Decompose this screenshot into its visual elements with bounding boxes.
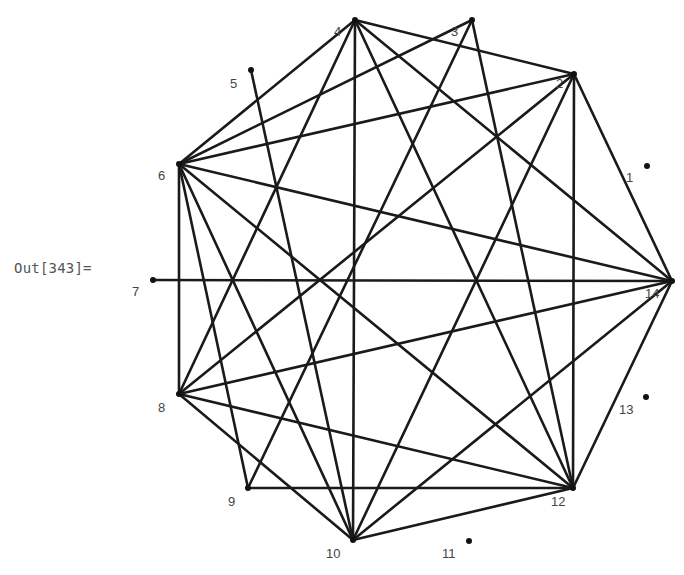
vertex-6 bbox=[176, 161, 182, 167]
edge-3-6 bbox=[179, 20, 472, 164]
vertex-label-4: 4 bbox=[334, 24, 341, 39]
vertex-label-6: 6 bbox=[158, 168, 165, 183]
edge-6-10 bbox=[179, 164, 353, 540]
vertex-8 bbox=[176, 391, 182, 397]
vertex-label-12: 12 bbox=[551, 494, 565, 509]
vertex-label-8: 8 bbox=[158, 400, 165, 415]
vertex-label-14: 14 bbox=[645, 286, 659, 301]
vertex-label-13: 13 bbox=[619, 402, 633, 417]
edge-7-14 bbox=[153, 280, 672, 281]
edge-2-14 bbox=[574, 74, 672, 281]
edge-8-14 bbox=[179, 281, 672, 394]
vertex-9 bbox=[245, 485, 251, 491]
vertex-10 bbox=[350, 537, 356, 543]
vertex-label-9: 9 bbox=[228, 494, 235, 509]
vertex-label-11: 11 bbox=[442, 546, 456, 561]
edge-5-10 bbox=[251, 70, 353, 540]
vertex-label-5: 5 bbox=[230, 76, 237, 91]
vertex-14 bbox=[669, 278, 675, 284]
vertex-1 bbox=[644, 163, 650, 169]
vertex-2 bbox=[571, 71, 577, 77]
vertex-13 bbox=[643, 394, 649, 400]
edge-2-8 bbox=[179, 74, 574, 394]
graph-plot: 1234567891011121314 bbox=[0, 0, 684, 575]
edge-2-10 bbox=[353, 74, 574, 540]
edge-4-8 bbox=[179, 20, 355, 394]
vertex-5 bbox=[248, 67, 254, 73]
vertex-label-2: 2 bbox=[556, 76, 563, 91]
edge-6-14 bbox=[179, 164, 672, 281]
vertex-label-10: 10 bbox=[326, 546, 340, 561]
vertex-label-7: 7 bbox=[132, 284, 139, 299]
vertex-11 bbox=[466, 538, 472, 544]
vertex-7 bbox=[150, 277, 156, 283]
edge-12-14 bbox=[573, 281, 672, 488]
vertex-label-1: 1 bbox=[626, 170, 633, 185]
vertex-12 bbox=[570, 485, 576, 491]
vertex-3 bbox=[469, 17, 475, 23]
vertex-4 bbox=[352, 17, 358, 23]
vertex-label-3: 3 bbox=[451, 24, 458, 39]
edges-layer bbox=[153, 20, 672, 540]
edge-4-12 bbox=[355, 20, 573, 488]
